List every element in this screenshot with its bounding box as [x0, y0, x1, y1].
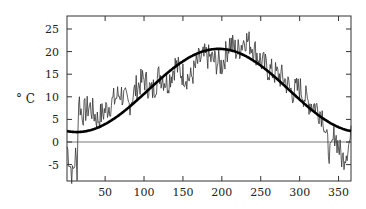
x-tick-label: 150 [172, 186, 193, 199]
plot-area: 50100150200250300350-50510152025 [45, 16, 351, 199]
y-tick-label: 10 [45, 91, 59, 104]
y-tick-label: 0 [52, 136, 59, 149]
y-tick-label: 15 [45, 68, 59, 81]
x-tick-label: 200 [211, 186, 232, 199]
y-tick-label: -5 [48, 159, 59, 172]
x-tick-label: 100 [134, 186, 155, 199]
y-tick-label: 25 [45, 23, 59, 36]
y-tick-label: 5 [52, 113, 59, 126]
plot-frame [67, 16, 351, 181]
temperature-chart: 50100150200250300350-50510152025 [0, 0, 366, 209]
x-tick-label: 250 [250, 186, 271, 199]
x-tick-label: 50 [98, 186, 112, 199]
x-tick-label: 350 [328, 186, 349, 199]
smooth-fit-curve [67, 49, 351, 132]
x-tick-label: 300 [289, 186, 310, 199]
y-tick-label: 20 [45, 46, 59, 59]
